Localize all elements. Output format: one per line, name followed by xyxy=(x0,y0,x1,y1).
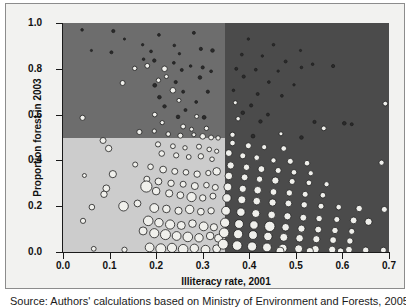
bubble-point xyxy=(252,210,260,218)
bubble-point xyxy=(259,120,262,123)
bubble-point xyxy=(176,115,180,119)
bubble-point xyxy=(324,182,329,187)
bubble-point xyxy=(164,75,168,79)
bubble-point xyxy=(316,215,322,221)
bubble-point xyxy=(105,145,111,151)
bubble-point xyxy=(192,31,195,34)
bubble-point xyxy=(201,245,210,252)
bubble-point xyxy=(110,51,113,54)
bubble-point xyxy=(178,52,180,54)
bubble-point xyxy=(336,204,342,210)
bubble-point xyxy=(293,84,295,86)
bubble-point xyxy=(381,206,387,212)
bubble-point xyxy=(90,49,92,51)
bubble-point xyxy=(347,238,353,244)
y-tick-mark xyxy=(56,69,62,70)
x-axis-title: Illiteracy rate, 2001 xyxy=(63,276,389,287)
bubble-point xyxy=(162,66,168,72)
bubble-point xyxy=(235,67,238,70)
bubble-point xyxy=(241,174,248,181)
bubble-point xyxy=(137,129,142,134)
bubble-point xyxy=(334,216,340,222)
bubble-point xyxy=(383,101,388,106)
bubble-point xyxy=(191,183,198,190)
bubble-point xyxy=(82,174,86,178)
bubble-point xyxy=(159,151,165,157)
bubble-point xyxy=(234,230,243,239)
bubble-point xyxy=(150,229,159,238)
bubble-point xyxy=(134,200,141,207)
bubble-point xyxy=(152,129,156,133)
bubble-point xyxy=(313,120,316,123)
bubble-point xyxy=(204,126,208,130)
bubble-point xyxy=(295,245,303,252)
bubble-point xyxy=(296,234,304,242)
bubble-point xyxy=(289,178,295,184)
bubble-point xyxy=(269,199,276,206)
bubble-point xyxy=(178,244,188,252)
bubble-point xyxy=(133,66,137,70)
bubble-point xyxy=(155,178,162,185)
bubble-point xyxy=(120,81,125,86)
bubble-point xyxy=(256,176,262,182)
bubble-point xyxy=(160,166,167,173)
bubble-point xyxy=(180,181,186,187)
y-tick-mark xyxy=(56,115,62,116)
bubble-point xyxy=(242,75,245,78)
bubble-point xyxy=(272,177,279,184)
bubble-point xyxy=(200,134,206,140)
bubble-point xyxy=(286,190,292,196)
bubble-point xyxy=(225,150,232,157)
bubble-point xyxy=(300,136,304,140)
bubble-point xyxy=(163,205,171,213)
bubble-point xyxy=(196,144,201,149)
bubble-point xyxy=(91,246,96,251)
bubble-point xyxy=(167,243,176,252)
bubble-point xyxy=(233,101,237,105)
chart-panel: 0.00.20.40.60.81.0 0.00.10.20.30.40.50.6… xyxy=(5,3,405,289)
bubble-point xyxy=(197,208,204,215)
bubble-point xyxy=(321,126,326,131)
bubble-point xyxy=(119,201,129,211)
bubble-point xyxy=(150,204,159,213)
bubble-point xyxy=(249,231,258,240)
bubble-point xyxy=(224,183,232,191)
bubble-point xyxy=(80,218,85,223)
bubble-point xyxy=(332,227,338,233)
bubble-point xyxy=(181,124,186,129)
bubble-point xyxy=(230,140,236,146)
bubble-point xyxy=(379,160,384,165)
bubble-point xyxy=(238,196,246,204)
bubble-point xyxy=(200,195,206,201)
bubble-point xyxy=(210,193,216,199)
bubble-point xyxy=(153,83,157,87)
bubble-point xyxy=(261,55,263,57)
bubble-point xyxy=(280,94,283,97)
bubble-point xyxy=(155,218,163,226)
bubble-point xyxy=(199,222,208,231)
x-tick-mark xyxy=(156,253,157,259)
bubble-point xyxy=(190,244,198,252)
bubble-point xyxy=(258,166,265,173)
bubble-point xyxy=(206,232,214,240)
bubble-point xyxy=(145,243,154,252)
x-tick-label: 0.6 xyxy=(322,261,362,271)
bubble-point xyxy=(158,95,162,99)
bubble-point xyxy=(216,136,220,140)
bubble-point xyxy=(284,60,287,63)
bubble-point xyxy=(356,205,362,211)
bubble-point xyxy=(177,98,181,102)
bubble-point xyxy=(202,115,206,119)
bubble-point xyxy=(175,207,182,214)
bubble-point xyxy=(198,154,203,159)
bubble-point xyxy=(204,182,210,188)
bubble-point xyxy=(81,29,84,32)
x-tick-mark xyxy=(296,253,297,259)
bubble-point xyxy=(166,132,171,137)
bubble-point xyxy=(275,167,281,173)
bubble-point xyxy=(180,68,183,71)
bubble-point xyxy=(265,221,275,231)
bubble-point xyxy=(89,204,95,210)
bubble-point xyxy=(311,63,314,66)
bubble-point xyxy=(148,164,154,170)
